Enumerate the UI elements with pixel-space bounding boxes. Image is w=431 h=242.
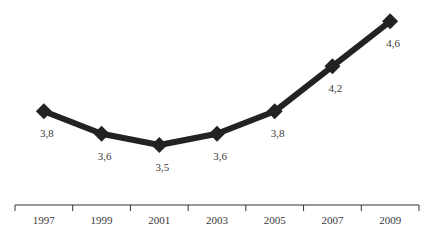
- diamond-marker: [209, 126, 225, 142]
- data-label: 3,6: [213, 150, 227, 162]
- data-label: 3,8: [40, 127, 54, 139]
- diamond-marker: [36, 103, 52, 119]
- x-tick-label: 2007: [321, 214, 344, 226]
- x-tick-label: 2001: [148, 214, 170, 226]
- x-tick-label: 2003: [206, 214, 229, 226]
- diamond-marker: [94, 126, 110, 142]
- data-label: 3,5: [155, 161, 169, 173]
- x-tick-label: 1997: [33, 214, 56, 226]
- x-axis-tick-labels: 1997199920012003200520072009: [33, 214, 402, 226]
- data-label: 3,8: [271, 127, 285, 139]
- line-chart: 1997199920012003200520072009 3,83,63,53,…: [0, 0, 431, 242]
- chart-canvas: 1997199920012003200520072009 3,83,63,53,…: [0, 0, 431, 242]
- data-label: 4,2: [329, 82, 343, 94]
- x-axis: [15, 205, 419, 211]
- data-label: 3,6: [98, 150, 112, 162]
- x-tick-label: 2005: [264, 214, 287, 226]
- x-tick-label: 2009: [379, 214, 402, 226]
- diamond-marker: [151, 137, 167, 153]
- data-label: 4,6: [386, 37, 400, 49]
- x-tick-label: 1999: [91, 214, 114, 226]
